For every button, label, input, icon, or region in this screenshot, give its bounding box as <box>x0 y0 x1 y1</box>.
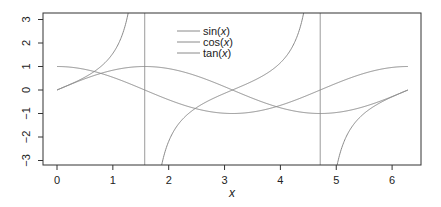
y-tick-label: −1 <box>20 107 32 120</box>
legend-tan-prefix: tan( <box>203 47 222 59</box>
y-tick-label: 1 <box>20 63 32 69</box>
x-tick-label: 1 <box>110 174 116 186</box>
trig-functions-chart: 0123456 −3−2−10123 x sin(x) cos(x) tan(x… <box>0 0 441 207</box>
y-tick-label: −3 <box>20 154 32 167</box>
x-axis-title: x <box>228 186 236 200</box>
x-axis: 0123456 <box>54 165 395 186</box>
legend: sin(x) cos(x) tan(x) <box>177 25 233 59</box>
legend-label-tan: tan(x) <box>203 47 231 59</box>
y-tick-label: 3 <box>20 16 32 22</box>
y-axis: −3−2−10123 <box>20 16 43 166</box>
y-tick-label: −2 <box>20 131 32 144</box>
x-tick-label: 4 <box>277 174 283 186</box>
x-tick-label: 6 <box>389 174 395 186</box>
x-tick-label: 3 <box>221 174 227 186</box>
x-tick-label: 0 <box>54 174 60 186</box>
curve-tan-3 <box>322 90 408 207</box>
x-tick-label: 2 <box>166 174 172 186</box>
legend-tan-suffix: ) <box>227 47 231 59</box>
x-tick-label: 5 <box>333 174 339 186</box>
y-tick-label: 2 <box>20 40 32 46</box>
curve-tan-2 <box>146 0 318 207</box>
y-tick-label: 0 <box>20 87 32 93</box>
